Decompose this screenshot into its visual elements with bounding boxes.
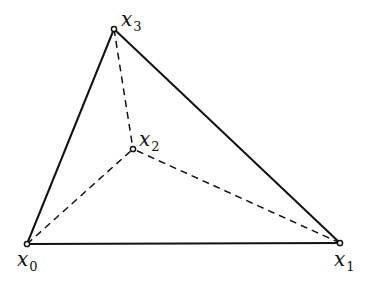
vertex-x1 [337,240,342,245]
label-x2: x2 [139,127,160,154]
edge-x3-x2-hidden [114,29,133,149]
label-x3: x3 [121,7,142,34]
vertex-labels: x0x1x2x3 [17,7,355,274]
label-subscript: 0 [29,259,37,274]
edge-x0-x3 [27,29,114,244]
label-x1: x1 [334,247,355,274]
edges [27,29,340,244]
vertex-x0 [24,241,29,246]
tetrahedron-diagram: x0x1x2x3 [0,0,373,281]
vertices [24,26,342,246]
edge-x0-x1 [27,243,340,244]
edge-x1-x2-hidden [133,149,340,243]
vertex-x2 [130,146,135,151]
label-subscript: 3 [133,19,141,34]
label-x0: x0 [17,247,38,274]
vertex-x3 [111,26,116,31]
label-base: x [121,7,132,31]
label-base: x [334,247,345,271]
label-subscript: 1 [346,259,354,274]
label-subscript: 2 [151,139,159,154]
label-base: x [17,247,28,271]
label-base: x [139,127,150,151]
diagram-svg: x0x1x2x3 [0,0,373,281]
edge-x0-x2-hidden [27,149,133,244]
